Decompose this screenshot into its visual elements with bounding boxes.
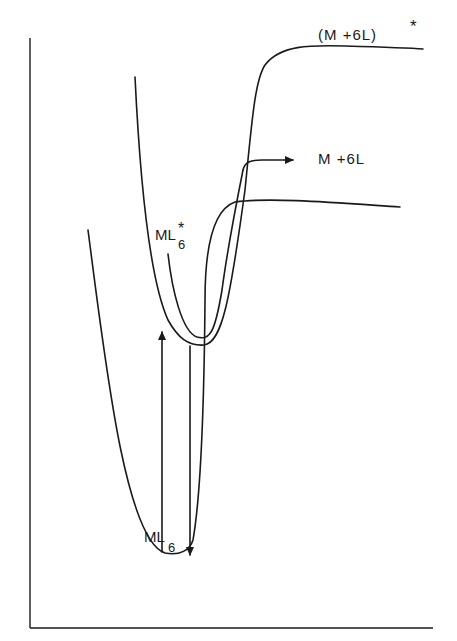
ground-dissociated-label: M +6L (318, 150, 365, 167)
label-text: ML (155, 226, 176, 243)
energy-diagram: (M +6L) * M +6L ML 6 * ML 6 (0, 0, 457, 641)
label-sub: 6 (168, 540, 175, 555)
excited-complex-label: ML 6 * (155, 220, 185, 252)
ground-state-curve (88, 200, 400, 554)
label-text: (M +6L) (318, 26, 377, 43)
excited-dissociated-label: (M +6L) * (318, 17, 417, 43)
label-sup: * (178, 220, 184, 237)
excited-state-curve (135, 46, 423, 345)
label-sup: * (410, 17, 417, 36)
dissociation-arrow (243, 160, 293, 170)
label-sub: 6 (178, 237, 185, 252)
label-text: ML (144, 528, 165, 545)
